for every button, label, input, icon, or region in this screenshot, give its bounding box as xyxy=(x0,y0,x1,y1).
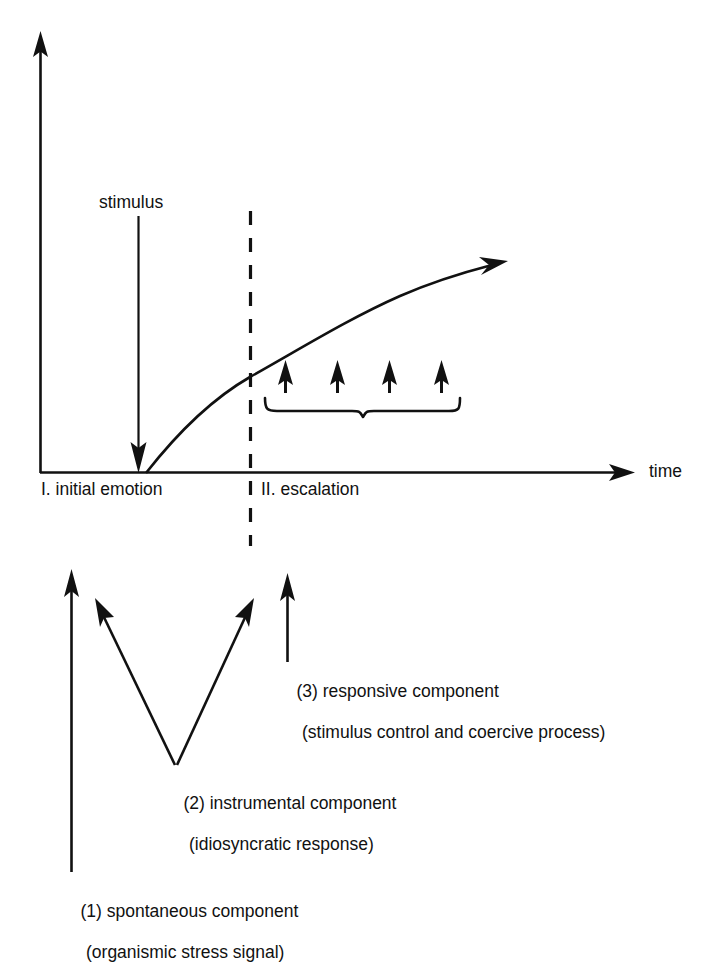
component-2-left-arrow xyxy=(95,598,175,765)
component-2-left-arrowhead xyxy=(95,598,114,627)
component-2-right-arrowhead xyxy=(235,598,254,627)
force-arrow-2 xyxy=(330,360,345,393)
component-2-label-line-2: (idiosyncratic response) xyxy=(164,834,396,855)
component-2-label-line-1: (2) instrumental component xyxy=(183,793,396,813)
x-axis-label: time xyxy=(649,461,682,482)
escalation-force-arrows xyxy=(278,360,449,393)
stimulus-arrow xyxy=(131,216,147,473)
component-3-label: (3) responsive component (stimulus contr… xyxy=(277,660,605,784)
component-2-right-arrow-shaft xyxy=(177,611,248,765)
component-2-left-arrow-shaft xyxy=(101,611,175,765)
phase-1-label: I. initial emotion xyxy=(41,479,163,500)
component-1-label-line-2: (organismic stress signal) xyxy=(61,942,298,963)
axis-group xyxy=(33,31,635,481)
component-3-arrow xyxy=(280,573,295,662)
stimulus-label: stimulus xyxy=(99,192,163,213)
component-1-label-line-1: (1) spontaneous component xyxy=(80,901,298,921)
escalation-curve xyxy=(146,257,508,473)
component-2-right-arrow xyxy=(177,598,254,765)
force-arrow-3 xyxy=(382,360,397,393)
component-3-label-line-1: (3) responsive component xyxy=(296,681,498,701)
force-arrow-1 xyxy=(278,360,293,393)
component-2-label: (2) instrumental component (idiosyncrati… xyxy=(164,772,396,896)
force-arrow-4 xyxy=(434,360,449,393)
phase-2-label: II. escalation xyxy=(261,479,359,500)
component-1-label: (1) spontaneous component (organismic st… xyxy=(61,880,298,966)
escalation-brace xyxy=(265,398,460,417)
component-1-arrow xyxy=(64,569,79,872)
component-3-label-line-2: (stimulus control and coercive process) xyxy=(277,722,605,743)
